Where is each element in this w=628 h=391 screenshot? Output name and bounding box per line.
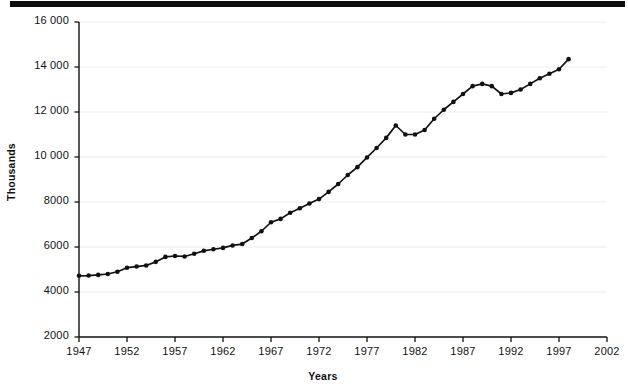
data-point-marker — [566, 57, 571, 62]
data-point-marker — [346, 173, 351, 178]
data-point-marker — [355, 165, 360, 170]
y-tick-label: 14 000 — [11, 59, 69, 71]
data-point-marker — [394, 123, 399, 128]
gridlines-group — [79, 22, 607, 292]
data-point-marker — [470, 84, 475, 89]
data-point-marker — [115, 269, 120, 274]
data-point-marker — [154, 260, 159, 265]
data-point-marker — [499, 92, 504, 97]
plot-area — [0, 0, 628, 391]
data-point-marker — [240, 242, 245, 247]
x-tick-label: 1972 — [297, 345, 341, 357]
data-point-marker — [221, 246, 226, 251]
data-point-marker — [96, 273, 101, 278]
data-point-marker — [307, 201, 312, 206]
data-point-marker — [173, 254, 178, 259]
data-point-marker — [298, 206, 303, 211]
data-point-marker — [451, 100, 456, 105]
data-point-marker — [518, 87, 523, 92]
data-point-marker — [192, 251, 197, 256]
y-tick-label: 2000 — [11, 329, 69, 341]
data-point-marker — [403, 132, 408, 137]
data-point-marker — [384, 136, 389, 141]
data-point-marker — [490, 84, 495, 89]
data-point-marker — [288, 211, 293, 216]
data-point-marker — [509, 91, 514, 96]
data-point-marker — [422, 128, 427, 133]
data-point-marker — [106, 272, 111, 277]
data-point-marker — [528, 82, 533, 87]
data-line — [79, 59, 569, 276]
x-tick-marks-group — [79, 337, 607, 342]
data-point-marker — [230, 243, 235, 248]
x-tick-label: 1957 — [153, 345, 197, 357]
data-point-marker — [77, 274, 82, 279]
data-point-marker — [144, 263, 149, 268]
x-tick-label: 1947 — [57, 345, 101, 357]
data-point-marker — [538, 76, 543, 81]
data-point-marker — [278, 217, 283, 222]
x-tick-label: 1952 — [105, 345, 149, 357]
data-point-marker — [413, 132, 418, 137]
y-tick-label: 6000 — [11, 239, 69, 251]
data-point-marker — [211, 247, 216, 252]
x-tick-label: 1977 — [345, 345, 389, 357]
line-chart-figure: Thousands Years 200040006000800010 00012… — [0, 0, 628, 391]
data-point-marker — [374, 146, 379, 151]
data-point-marker — [317, 197, 322, 202]
data-point-marker — [432, 116, 437, 121]
x-tick-label: 1997 — [537, 345, 581, 357]
data-point-marker — [480, 82, 485, 87]
data-point-marker — [250, 236, 255, 241]
data-point-marker — [547, 71, 552, 76]
data-point-marker — [86, 273, 91, 278]
data-point-marker — [442, 107, 447, 112]
y-tick-label: 4000 — [11, 284, 69, 296]
data-point-marker — [365, 155, 370, 160]
x-tick-label: 1982 — [393, 345, 437, 357]
x-tick-label: 2002 — [585, 345, 628, 357]
data-point-marker — [163, 255, 168, 260]
data-point-marker — [125, 265, 130, 270]
x-tick-label: 1962 — [201, 345, 245, 357]
x-tick-label: 1987 — [441, 345, 485, 357]
data-point-marker — [134, 264, 139, 269]
data-point-marker — [269, 220, 274, 225]
data-point-marker — [326, 190, 331, 195]
data-point-marker — [557, 67, 562, 72]
x-tick-label: 1992 — [489, 345, 533, 357]
y-tick-label: 12 000 — [11, 104, 69, 116]
data-point-marker — [259, 229, 264, 234]
data-point-marker — [202, 249, 207, 254]
y-tick-label: 8000 — [11, 194, 69, 206]
x-tick-label: 1967 — [249, 345, 293, 357]
y-tick-label: 16 000 — [11, 14, 69, 26]
y-tick-label: 10 000 — [11, 149, 69, 161]
data-point-marker — [336, 182, 341, 187]
data-point-marker — [182, 254, 187, 259]
data-point-marker — [461, 92, 466, 97]
